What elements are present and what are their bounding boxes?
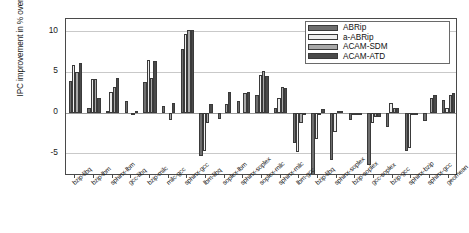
bar: [218, 113, 221, 120]
bar: [359, 113, 362, 115]
bar: [423, 113, 426, 121]
gridline: [66, 72, 456, 73]
bar: [172, 103, 175, 113]
bar: [433, 95, 436, 113]
bar: [315, 113, 318, 139]
gridline: [66, 153, 456, 154]
bar: [396, 108, 399, 112]
bar: [303, 113, 306, 115]
legend-item-a-abrip: a-ABRip: [308, 33, 447, 42]
legend-item-acam-atd: ACAM-ATD: [308, 52, 447, 61]
bar: [191, 30, 194, 112]
bar: [135, 111, 138, 113]
y-tick-label: -5: [28, 148, 58, 156]
bar: [247, 92, 250, 112]
bar: [340, 111, 343, 113]
bar: [228, 92, 231, 112]
bar: [206, 113, 209, 124]
bar: [169, 113, 172, 120]
legend-label: ABRip: [343, 23, 366, 32]
legend-item-abrip: ABRip: [308, 23, 447, 32]
bar: [415, 113, 418, 115]
bar: [321, 109, 324, 112]
bar: [377, 113, 380, 117]
y-tick-label: 0: [28, 107, 58, 115]
bar: [237, 101, 240, 112]
bar: [79, 63, 82, 113]
bar: [318, 113, 321, 115]
bar: [284, 88, 287, 112]
legend-label: ACAM-SDM: [343, 42, 388, 51]
bar: [162, 106, 165, 113]
legend-item-acam-sdm: ACAM-SDM: [308, 42, 447, 51]
bar: [333, 113, 336, 133]
zero-line: [66, 113, 456, 114]
bar: [125, 101, 128, 112]
legend-label: ACAM-ATD: [343, 52, 385, 61]
bar: [116, 78, 119, 113]
legend-swatch-icon: [308, 25, 338, 31]
y-axis-label: IPC improvement in % over SRRIP: [16, 0, 25, 115]
bar: [408, 113, 411, 148]
chart-legend: ABRip a-ABRip ACAM-SDM ACAM-ATD: [305, 21, 450, 64]
legend-swatch-icon: [308, 53, 338, 59]
bar: [386, 113, 389, 128]
bar: [97, 98, 100, 113]
bar: [452, 93, 455, 113]
bar: [265, 76, 268, 113]
bar: [153, 61, 156, 112]
legend-label: a-ABRip: [343, 33, 374, 42]
legend-swatch-icon: [308, 34, 338, 40]
y-tick-label: 10: [28, 26, 58, 34]
legend-swatch-icon: [308, 44, 338, 50]
bar: [209, 104, 212, 112]
y-tick-label: 5: [28, 66, 58, 74]
